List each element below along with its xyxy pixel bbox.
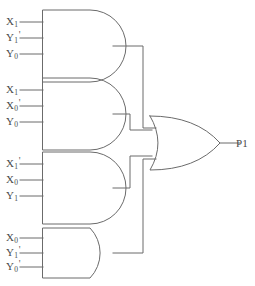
and-gate-2 [20, 78, 152, 150]
and-gate-1 [20, 10, 156, 128]
and-gate-1-input-label-3: Y0 [6, 48, 18, 59]
and-gate-3 [20, 152, 152, 224]
circuit-diagram: X1 Y1' Y0 X1 X0' Y0 X1' X0 Y1 X0 Y1' Y0'… [0, 0, 255, 286]
and-gate-3-input-label-1: X1' [6, 158, 20, 169]
circuit-svg [0, 0, 255, 286]
and-gate-3-input-label-3: Y1 [6, 190, 18, 201]
output-label: P1 [236, 137, 248, 149]
and-gate-4-input-label-1: X0 [6, 232, 18, 243]
and-gate-4-input-label-3: Y0' [6, 261, 20, 272]
or-gate-1 [150, 116, 240, 170]
and-gate-4 [20, 159, 156, 278]
and-gate-1-input-label-1: X1 [6, 16, 18, 27]
and-gate-2-input-label-1: X1 [6, 84, 18, 95]
and-gate-4-body [43, 228, 100, 278]
and-gate-3-output-wire [113, 156, 152, 188]
and-gate-1-input-label-2: Y1' [6, 32, 20, 43]
and-gate-2-input-label-3: Y0 [6, 116, 18, 127]
and-gate-2-input-label-2: X0' [6, 100, 20, 111]
and-gate-4-output-wire [113, 159, 156, 253]
or-gate-1-body [150, 116, 220, 170]
and-gate-3-input-label-2: X0 [6, 174, 18, 185]
and-gate-4-input-label-2: Y1' [6, 247, 20, 258]
